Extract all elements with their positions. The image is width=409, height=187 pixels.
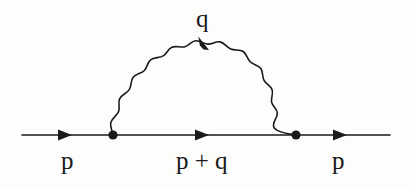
feynman-diagram-figure: q p p + q p [0, 0, 409, 187]
internal-momentum-label: p + q [176, 148, 228, 173]
fermion-arrowhead-outgoing [333, 130, 347, 141]
vertex-dot-right [291, 130, 300, 139]
photon-propagator-wavy-arc [111, 41, 296, 135]
fermion-arrowhead-internal [195, 130, 209, 141]
outgoing-momentum-label: p [332, 148, 345, 173]
photon-arc-group [111, 37, 296, 136]
incoming-momentum-label: p [61, 148, 74, 173]
fermion-line-group [22, 130, 390, 141]
vertex-dot-left [108, 130, 117, 139]
photon-momentum-label: q [196, 6, 209, 31]
photon-arrowhead-q [198, 37, 209, 51]
fermion-arrowhead-incoming [58, 130, 72, 141]
